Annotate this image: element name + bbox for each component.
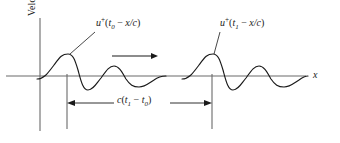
- wave-label-t0: u+(t0 − x/c): [96, 17, 140, 31]
- wave-label-t0-minus: −: [115, 17, 126, 28]
- x-axis-label: x: [313, 70, 317, 80]
- distance-label-minus: −: [131, 94, 142, 105]
- wave-label-t0-close: ): [137, 17, 140, 28]
- wave-label-t1-minus: −: [239, 17, 250, 28]
- wave-label-t1: u+(t1 − x/c): [220, 17, 264, 31]
- velocity-axis-label: Velocity: [28, 0, 38, 16]
- wave-packet-t1: [182, 54, 308, 90]
- leader-line-t1: [214, 32, 220, 54]
- figure-canvas: [0, 0, 340, 143]
- propagation-direction-arrow: [112, 53, 158, 59]
- wave-packet-t0: [37, 54, 166, 90]
- wave-label-t1-close: ): [261, 17, 264, 28]
- wave-label-t1-xc: x/c: [249, 17, 261, 28]
- wave-label-t0-xc: x/c: [125, 17, 137, 28]
- wave-propagation-figure: Velocity x u+(t0 − x/c) u+(t1 − x/c) c(t…: [0, 0, 340, 143]
- distance-label-close: ): [148, 94, 151, 105]
- leader-line-t0: [70, 32, 95, 54]
- distance-label: c(t1 − t0): [117, 95, 151, 108]
